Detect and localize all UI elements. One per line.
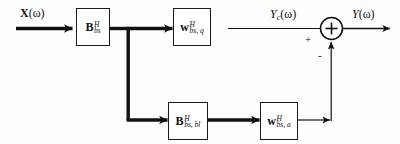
block-b-bs-bl[interactable]: BHbs, bl xyxy=(168,102,208,140)
block-b-bs[interactable]: BHbs xyxy=(76,8,110,46)
figure-canvas: BHbs wHbs, q BHbs, bl wHbs, a X(ω) Yc(ω)… xyxy=(0,0,400,144)
block-w-bs-q-sub: bs, q xyxy=(190,27,204,34)
block-w-bs-q-label: wHbs, q xyxy=(180,20,203,35)
quiescent-output-arg: (ω) xyxy=(280,7,296,21)
block-b-bs-base: B xyxy=(85,20,93,34)
quiescent-output-label: Yc(ω) xyxy=(270,8,296,22)
block-w-bs-q-base: w xyxy=(180,20,189,34)
block-b-bs-bl-label: BHbs, bl xyxy=(176,114,201,129)
output-signal-base: Y xyxy=(352,7,359,21)
output-signal-label: Y(ω) xyxy=(352,8,375,20)
block-b-bs-bl-base: B xyxy=(176,114,184,128)
input-signal-base: X xyxy=(20,6,29,20)
plus-sign-label: + xyxy=(305,34,311,45)
block-w-bs-a[interactable]: wHbs, a xyxy=(260,102,298,140)
block-w-bs-a-label: wHbs, a xyxy=(267,114,290,129)
block-b-bs-sub: bs xyxy=(94,27,101,34)
input-signal-arg: (ω) xyxy=(29,6,45,20)
output-signal-arg: (ω) xyxy=(359,7,375,21)
block-w-bs-q[interactable]: wHbs, q xyxy=(173,8,211,46)
input-signal-label: X(ω) xyxy=(20,7,45,19)
minus-sign-label: - xyxy=(318,50,322,61)
quiescent-output-base: Y xyxy=(270,7,277,21)
block-b-bs-bl-sub: bs, bl xyxy=(184,121,200,128)
block-w-bs-a-base: w xyxy=(267,114,276,128)
block-w-bs-a-sub: bs, a xyxy=(277,121,291,128)
block-b-bs-label: BHbs xyxy=(85,20,100,35)
